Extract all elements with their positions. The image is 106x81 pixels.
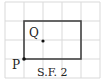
- point-q-dot: [41, 39, 44, 42]
- point-p-dot: [22, 57, 26, 61]
- point-p-label: P: [12, 58, 20, 72]
- grid-diagram: P Q S.F. 2: [0, 0, 106, 81]
- figure-caption: S.F. 2: [37, 66, 68, 79]
- point-q-label: Q: [29, 26, 39, 40]
